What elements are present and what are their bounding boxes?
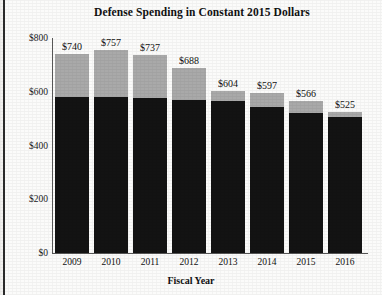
bar-segment-additional <box>172 68 206 100</box>
bar-label-2013: $604 <box>206 78 250 89</box>
bar-2013 <box>211 91 245 253</box>
bar-label-2014: $597 <box>245 80 289 91</box>
bar-2015 <box>289 101 323 253</box>
bar-2016 <box>328 112 362 253</box>
page-binding-edge <box>3 0 5 295</box>
bar-segment-base <box>55 97 89 253</box>
bar-2012 <box>172 68 206 253</box>
x-tick-label-2010: 2010 <box>89 257 133 267</box>
bar-segment-base <box>172 100 206 253</box>
y-tick-label: $800 <box>29 33 48 43</box>
y-tick-label: $200 <box>29 194 48 204</box>
y-tick-label: $600 <box>29 87 48 97</box>
bar-2010 <box>94 50 128 253</box>
x-axis-line <box>52 253 368 254</box>
bar-label-2012: $688 <box>167 55 211 66</box>
bar-segment-additional <box>133 55 167 98</box>
x-tick-label-2009: 2009 <box>50 257 94 267</box>
bar-segment-additional <box>94 50 128 98</box>
bar-segment-additional <box>211 91 245 101</box>
chart-title: Defense Spending in Constant 2015 Dollar… <box>52 6 352 18</box>
bar-2011 <box>133 55 167 253</box>
bar-segment-additional <box>289 101 323 113</box>
y-tick-600: $600 <box>6 87 48 97</box>
x-tick-label-2013: 2013 <box>206 257 250 267</box>
bar-segment-base <box>94 97 128 253</box>
bar-2014 <box>250 93 284 253</box>
x-axis-title: Fiscal Year <box>0 275 382 286</box>
bar-segment-base <box>250 107 284 253</box>
x-tick-label-2016: 2016 <box>323 257 367 267</box>
bar-segment-additional <box>250 93 284 107</box>
bar-label-2009: $740 <box>50 41 94 52</box>
bar-label-2010: $757 <box>89 37 133 48</box>
bar-segment-base <box>133 98 167 253</box>
x-tick-label-2015: 2015 <box>284 257 328 267</box>
x-tick-label-2014: 2014 <box>245 257 289 267</box>
bar-label-2011: $737 <box>128 42 172 53</box>
chart-page: Defense Spending in Constant 2015 Dollar… <box>0 0 382 295</box>
y-tick-label: $400 <box>29 141 48 151</box>
y-tick-400: $400 <box>6 141 48 151</box>
bar-segment-base <box>328 117 362 253</box>
y-tick-800: $800 <box>6 33 48 43</box>
bar-label-2016: $525 <box>323 99 367 110</box>
x-tick-label-2012: 2012 <box>167 257 211 267</box>
bar-segment-additional <box>55 54 89 97</box>
bar-segment-base <box>289 113 323 253</box>
x-tick-label-2011: 2011 <box>128 257 172 267</box>
y-tick-200: $200 <box>6 194 48 204</box>
y-tick-0: $0 <box>6 248 48 258</box>
bar-segment-base <box>211 101 245 253</box>
bar-2009 <box>55 54 89 253</box>
plot-area <box>52 38 367 253</box>
bar-label-2015: $566 <box>284 88 328 99</box>
y-tick-label: $0 <box>39 248 49 258</box>
